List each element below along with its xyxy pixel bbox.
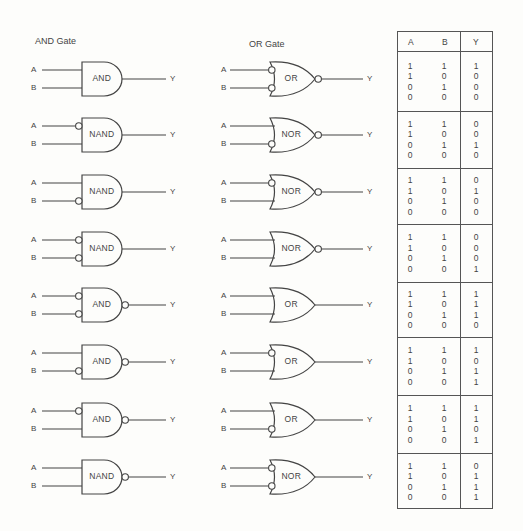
cell-a: 0 bbox=[403, 140, 417, 151]
cell-a: 0 bbox=[403, 492, 417, 503]
cell-a: 0 bbox=[403, 264, 417, 275]
input-b-label: B bbox=[221, 424, 226, 433]
block-divider bbox=[398, 337, 492, 338]
inversion-bubble-icon bbox=[315, 189, 321, 195]
output-y-label: Y bbox=[367, 472, 372, 481]
cell-a: 1 bbox=[403, 461, 417, 472]
cell-y: 0 bbox=[469, 356, 483, 367]
cell-a: 0 bbox=[403, 196, 417, 207]
cell-a: 1 bbox=[403, 129, 417, 140]
cell-a: 0 bbox=[403, 435, 417, 446]
cell-y: 1 bbox=[469, 299, 483, 310]
cell-y: 1 bbox=[469, 345, 483, 356]
cell-b: 0 bbox=[437, 414, 451, 425]
gate-type-label: NOR bbox=[281, 471, 301, 481]
truth-table: A B Y 1100101010001100101000101100101001… bbox=[397, 31, 493, 509]
gate-type-label: NAND bbox=[89, 471, 114, 481]
output-y-label: Y bbox=[367, 187, 372, 196]
header-b: B bbox=[442, 37, 448, 47]
cell-y: 1 bbox=[469, 140, 483, 151]
cell-a: 1 bbox=[403, 232, 417, 243]
inversion-bubble-icon bbox=[269, 141, 275, 147]
cell-y: 0 bbox=[469, 232, 483, 243]
cell-a: 0 bbox=[403, 207, 417, 218]
gate-row: ABYANDABYOR bbox=[0, 392, 390, 448]
gate-type-label: OR bbox=[285, 414, 298, 424]
cell-a: 1 bbox=[403, 243, 417, 254]
cell-a: 1 bbox=[403, 61, 417, 72]
cell-b: 1 bbox=[437, 253, 451, 264]
output-y-label: Y bbox=[367, 244, 372, 253]
cell-b: 1 bbox=[437, 175, 451, 186]
cell-a: 0 bbox=[403, 482, 417, 493]
input-a-label: A bbox=[221, 291, 226, 300]
cell-y: 0 bbox=[469, 320, 483, 331]
left-gate-and: ABYAND bbox=[0, 277, 190, 333]
cell-a: 1 bbox=[403, 356, 417, 367]
block-divider bbox=[398, 395, 492, 396]
cell-a: 1 bbox=[403, 471, 417, 482]
input-a-label: A bbox=[31, 121, 36, 130]
cell-y: 0 bbox=[469, 175, 483, 186]
cell-a: 1 bbox=[403, 414, 417, 425]
cell-b: 0 bbox=[437, 71, 451, 82]
cell-y: 1 bbox=[469, 366, 483, 377]
cell-y: 0 bbox=[469, 82, 483, 93]
gate-type-label: AND bbox=[92, 73, 111, 83]
cell-b: 1 bbox=[437, 82, 451, 93]
cell-y: 0 bbox=[469, 243, 483, 254]
inversion-bubble-icon bbox=[76, 198, 82, 204]
inversion-bubble-icon bbox=[269, 85, 275, 91]
gate-type-label: AND bbox=[92, 299, 111, 309]
right-gate-or: ABYOR bbox=[200, 51, 390, 107]
inversion-bubble-icon bbox=[76, 255, 82, 261]
right-gate-nor: ABYNOR bbox=[200, 221, 390, 277]
gate-row: ABYNANDABYNOR bbox=[0, 449, 390, 505]
inversion-bubble-icon bbox=[315, 132, 321, 138]
input-a-label: A bbox=[221, 463, 226, 472]
input-a-label: A bbox=[221, 121, 226, 130]
cell-b: 0 bbox=[437, 150, 451, 161]
cell-y: 0 bbox=[469, 119, 483, 130]
cell-y: 0 bbox=[469, 207, 483, 218]
cell-b: 1 bbox=[437, 140, 451, 151]
gate-type-label: NOR bbox=[281, 243, 301, 253]
gate-row: ABYNANDABYNOR bbox=[0, 107, 390, 163]
header-divider bbox=[398, 51, 492, 52]
cell-a: 0 bbox=[403, 150, 417, 161]
cell-a: 0 bbox=[403, 253, 417, 264]
input-b-label: B bbox=[221, 481, 226, 490]
input-b-label: B bbox=[31, 366, 36, 375]
gate-type-label: NAND bbox=[89, 129, 114, 139]
inversion-bubble-icon bbox=[315, 246, 321, 252]
inversion-bubble-icon bbox=[76, 293, 82, 299]
cell-a: 1 bbox=[403, 299, 417, 310]
input-b-label: B bbox=[31, 253, 36, 262]
cell-y: 1 bbox=[469, 186, 483, 197]
cell-b: 0 bbox=[437, 186, 451, 197]
cell-b: 1 bbox=[437, 61, 451, 72]
cell-a: 0 bbox=[403, 310, 417, 321]
output-y-label: Y bbox=[170, 472, 175, 481]
cell-a: 0 bbox=[403, 320, 417, 331]
input-b-label: B bbox=[31, 424, 36, 433]
input-a-label: A bbox=[31, 65, 36, 74]
cell-b: 0 bbox=[437, 92, 451, 103]
cell-y: 1 bbox=[469, 310, 483, 321]
left-gate-nand: ABYNAND bbox=[0, 107, 190, 163]
input-a-label: A bbox=[31, 463, 36, 472]
cell-b: 0 bbox=[437, 243, 451, 254]
cell-a: 0 bbox=[403, 82, 417, 93]
right-gate-or: ABYOR bbox=[200, 277, 390, 333]
cell-y: 0 bbox=[469, 253, 483, 264]
input-a-label: A bbox=[221, 65, 226, 74]
block-divider bbox=[398, 111, 492, 112]
input-b-label: B bbox=[31, 481, 36, 490]
gate-row: ABYNANDABYNOR bbox=[0, 221, 390, 277]
cell-y: 1 bbox=[469, 435, 483, 446]
input-a-label: A bbox=[221, 348, 226, 357]
cell-b: 1 bbox=[437, 403, 451, 414]
cell-y: 1 bbox=[469, 377, 483, 388]
input-b-label: B bbox=[221, 83, 226, 92]
right-gate-nor: ABYNOR bbox=[200, 107, 390, 163]
